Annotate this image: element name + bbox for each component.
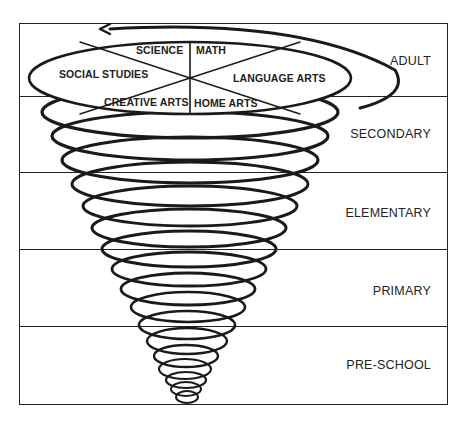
stage-label-adult: ADULT — [390, 54, 431, 68]
subject-math: MATH — [196, 44, 226, 56]
stage-label-secondary: SECONDARY — [350, 127, 431, 141]
subject-social-studies: SOCIAL STUDIES — [59, 68, 148, 80]
subject-home-arts: HOME ARTS — [194, 97, 258, 109]
subject-language-arts: LANGUAGE ARTS — [233, 72, 326, 84]
stage-label-pre-school: PRE-SCHOOL — [346, 358, 431, 372]
stage-label-elementary: ELEMENTARY — [345, 206, 431, 220]
stage-label-primary: PRIMARY — [373, 284, 431, 298]
subject-science: SCIENCE — [136, 44, 183, 56]
subject-creative-arts: CREATIVE ARTS — [104, 96, 189, 108]
